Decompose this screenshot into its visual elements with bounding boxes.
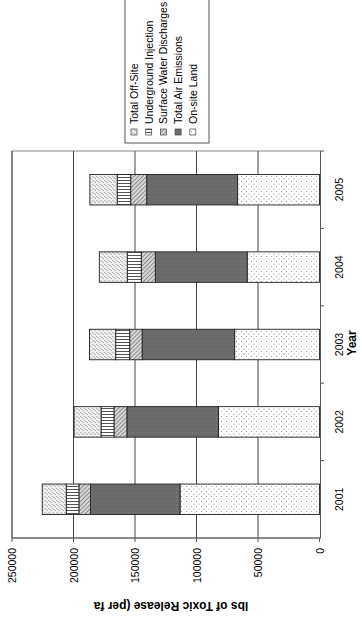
bar-segment [238, 174, 320, 205]
bar-segment [90, 174, 117, 205]
legend-label: Total Off-Site [128, 63, 140, 124]
legend-swatch [190, 129, 196, 135]
legend-swatch [160, 129, 166, 135]
legend-swatch [146, 129, 152, 135]
legend-label: Surface Water Discharges [157, 2, 169, 124]
bar-segment [127, 252, 141, 283]
value-tick-label: 0 [314, 548, 326, 554]
category-label: 2002 [333, 410, 345, 434]
bar-segment [114, 407, 127, 438]
bar-segment [180, 484, 319, 515]
bar-segment [127, 407, 219, 438]
category-label: 2003 [333, 333, 345, 357]
value-tick-label: 200000 [68, 548, 80, 583]
bar-segment [141, 252, 155, 283]
bar-segment [116, 329, 130, 360]
bar-segment [130, 329, 142, 360]
bar-segment [218, 407, 319, 438]
value-tick-label: 150000 [129, 548, 141, 583]
legend-label: On-site Land [187, 64, 199, 124]
bar-segment [155, 252, 247, 283]
category-label: 2005 [333, 178, 345, 202]
value-tick-label: 100000 [191, 548, 203, 583]
bar-segment [142, 329, 234, 360]
bar-segment [79, 484, 91, 515]
x-axis-title: Year [345, 330, 359, 356]
bar-segment [90, 484, 180, 515]
bar-segment [74, 407, 101, 438]
legend-label: Underground Injection [143, 21, 155, 124]
bar-segment [117, 174, 131, 205]
category-ticks [321, 151, 325, 461]
legend-swatch [175, 129, 181, 135]
bar-segment [247, 252, 319, 283]
bar-segment [131, 174, 147, 205]
legend-label: Total Air Emissions [172, 36, 184, 124]
bar-segment [89, 329, 115, 360]
bar-segment [99, 252, 127, 283]
legend-swatch [131, 129, 137, 135]
value-tick-label: 250000 [6, 548, 18, 583]
bar-segment [101, 407, 114, 438]
bar-segment [147, 174, 238, 205]
value-tick-label: 50000 [252, 548, 264, 577]
stacked-bar-chart: 20012002200320042005 0500001000001500002… [0, 0, 362, 625]
category-labels: 20012002200320042005 [333, 178, 345, 511]
y-axis-title: lbs of Toxic Release (per fa [93, 599, 248, 613]
bar-segment [235, 329, 320, 360]
category-label: 2004 [333, 255, 345, 279]
bar-segment [66, 484, 79, 515]
legend: Total Off-SiteUnderground InjectionSurfa… [125, 0, 209, 143]
bar-segment [42, 484, 66, 515]
category-label: 2001 [333, 487, 345, 511]
value-axis-labels: 050000100000150000200000250000 [6, 538, 326, 583]
